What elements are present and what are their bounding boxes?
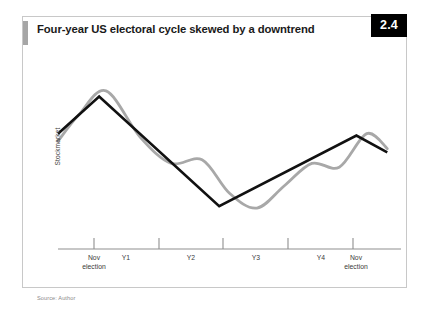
page-title: Four-year US electoral cycle skewed by a… bbox=[37, 23, 315, 35]
title-accent-bar bbox=[23, 21, 28, 45]
figure-panel: Four-year US electoral cycle skewed by a… bbox=[22, 16, 407, 288]
x-tick-label-y3: Y3 bbox=[243, 254, 269, 263]
figure-number-badge: 2.4 bbox=[371, 14, 407, 37]
series-electoral-cycle bbox=[58, 90, 387, 208]
x-axis-ticks bbox=[94, 238, 353, 249]
y-axis-label: Stockmarket bbox=[54, 107, 61, 187]
chart-plot-area: Stockmarket Nov electionY1Y2Y3Y4Nov elec… bbox=[23, 47, 408, 289]
x-tick-label-y1: Y1 bbox=[113, 254, 139, 263]
source-note: Source: Author bbox=[37, 295, 75, 301]
electoral-cycle-line bbox=[58, 90, 387, 208]
chart-canvas bbox=[23, 47, 408, 289]
x-axis bbox=[58, 238, 401, 249]
x-tick-label-nov-election-end: Nov election bbox=[331, 254, 381, 271]
series-underlying-trend bbox=[58, 96, 387, 206]
underlying-trend-line bbox=[58, 96, 387, 206]
x-tick-label-y2: Y2 bbox=[178, 254, 204, 263]
figure-header: Four-year US electoral cycle skewed by a… bbox=[23, 17, 406, 47]
x-tick-label-nov-election-start: Nov election bbox=[69, 254, 119, 271]
